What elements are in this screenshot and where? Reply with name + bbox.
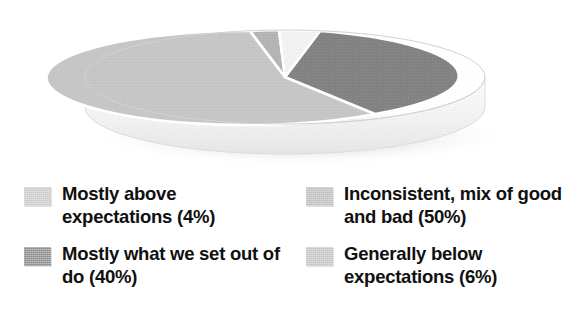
pie-chart	[0, 0, 566, 175]
legend-item-inconsistent-mix[interactable]: Inconsistent, mix of good and bad (50%)	[306, 183, 566, 239]
legend-item-mostly-above-expectations[interactable]: Mostly above expectations (4%)	[24, 183, 296, 239]
chart-legend: Mostly above expectations (4%) Inconsist…	[0, 183, 566, 308]
pie-chart-graphic	[0, 0, 566, 175]
legend-item-mostly-what-we-set-out-of-do[interactable]: Mostly what we set out of do (40%)	[24, 243, 296, 299]
legend-item-generally-below-expectations[interactable]: Generally below expectations (6%)	[306, 243, 566, 299]
legend-item-label: Generally below expectations (6%)	[344, 243, 566, 288]
pie-top-face-texture	[85, 30, 485, 124]
legend-item-label: Mostly what we set out of do (40%)	[62, 243, 287, 288]
legend-swatch-icon	[24, 187, 51, 206]
legend-swatch-icon	[306, 187, 333, 206]
legend-item-label: Mostly above expectations (4%)	[62, 183, 287, 228]
legend-item-label: Inconsistent, mix of good and bad (50%)	[344, 183, 566, 228]
pie-slices	[46, 30, 485, 125]
legend-swatch-icon	[24, 247, 51, 266]
legend-swatch-icon	[306, 247, 333, 266]
